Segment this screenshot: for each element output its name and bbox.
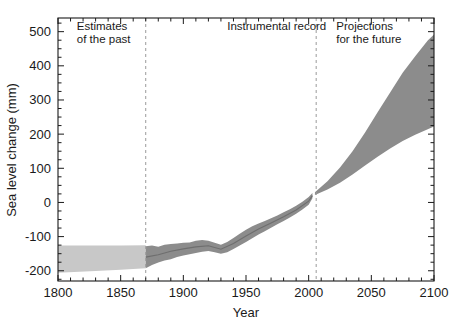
x-tick-label: 2050 xyxy=(357,285,386,300)
annotation-line: Projections xyxy=(336,20,393,32)
y-tick-label: -200 xyxy=(25,263,51,278)
annotation-line: Estimates xyxy=(77,20,128,32)
annotation-line: for the future xyxy=(336,33,401,45)
y-tick-label: 300 xyxy=(29,92,51,107)
y-tick-label: 0 xyxy=(44,195,51,210)
y-tick-label: 500 xyxy=(29,24,51,39)
sea-level-change-figure: 1800185019001950200020502100 -200-100010… xyxy=(0,0,449,326)
y-tick-label: -100 xyxy=(25,229,51,244)
annotation-projections-for-the-future: Projectionsfor the future xyxy=(336,20,401,45)
y-tick-label: 200 xyxy=(29,127,51,142)
y-tick-label: 100 xyxy=(29,161,51,176)
x-axis-title: Year xyxy=(233,305,260,320)
x-tick-label: 1900 xyxy=(169,285,198,300)
x-tick-label: 1850 xyxy=(106,285,135,300)
annotation-instrumental-record: Instrumental record xyxy=(227,20,326,32)
annotation-line: Instrumental record xyxy=(227,20,326,32)
y-tick-label: 400 xyxy=(29,58,51,73)
annotation-estimates-of-the-past: Estimatesof the past xyxy=(77,20,132,45)
band-estimates-of-the-past-proxy-range xyxy=(58,245,146,273)
x-tick-label: 1950 xyxy=(232,285,261,300)
x-tick-label: 1800 xyxy=(44,285,73,300)
x-tick-label: 2000 xyxy=(294,285,323,300)
annotation-line: of the past xyxy=(77,33,132,45)
y-axis-title: Sea level change (mm) xyxy=(4,83,19,217)
x-tick-label: 2100 xyxy=(420,285,449,300)
sea-level-change-chart: 1800185019001950200020502100 -200-100010… xyxy=(0,0,449,326)
